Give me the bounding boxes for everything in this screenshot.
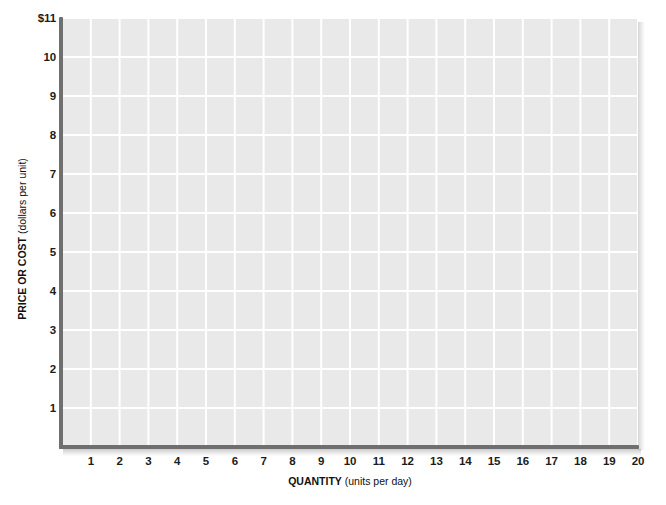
y-axis-tick-labels: 12345678910$11 xyxy=(0,0,56,505)
y-tick-label-2: 2 xyxy=(4,363,56,375)
y-tick-label-6: 6 xyxy=(4,207,56,219)
x-axis-title-light: (units per day) xyxy=(345,475,412,487)
y-tick-label-4: 4 xyxy=(4,285,56,297)
y-axis-title: PRICE OR COST (dollars per unit) xyxy=(16,139,28,339)
y-axis-title-light: (dollars per unit) xyxy=(16,158,28,234)
grid-lines xyxy=(62,18,638,447)
y-tick-label-8: 8 xyxy=(4,129,56,141)
y-tick-label-3: 3 xyxy=(4,324,56,336)
x-axis-title: QUANTITY (units per day) xyxy=(62,475,638,487)
plot-area xyxy=(62,18,638,447)
x-tick-label-20: 20 xyxy=(621,455,655,468)
x-axis-title-bold: QUANTITY xyxy=(288,475,342,487)
chart-figure: 12345678910$11 1234567891011121314151617… xyxy=(0,0,666,505)
y-tick-label-10: 10 xyxy=(4,51,56,63)
y-tick-label-5: 5 xyxy=(4,246,56,258)
y-tick-label-9: 9 xyxy=(4,90,56,102)
x-axis-tick-labels: 1234567891011121314151617181920 xyxy=(0,455,666,471)
y-tick-label-1: 1 xyxy=(4,402,56,414)
y-tick-label-11: $11 xyxy=(4,12,56,24)
plot-right-shadow xyxy=(638,22,645,450)
y-axis-line xyxy=(59,17,63,449)
y-axis-title-bold: PRICE OR COST xyxy=(16,237,28,320)
bottom-caption xyxy=(390,497,666,505)
y-tick-label-7: 7 xyxy=(4,168,56,180)
